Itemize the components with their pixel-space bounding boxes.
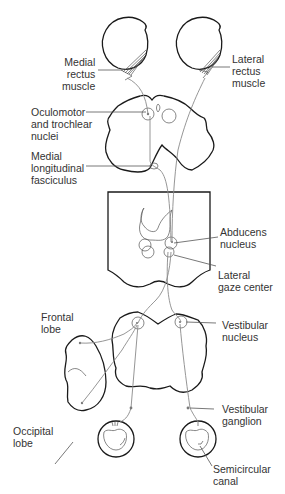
label-frontal-lobe: Frontal lobe bbox=[41, 311, 74, 335]
right-eyeball bbox=[176, 17, 221, 78]
label-medial-longitudinal-fasciculus: Medial longitudinal fasciculus bbox=[31, 150, 84, 186]
left-eyeball bbox=[102, 17, 147, 80]
right-semicircular-canal bbox=[180, 421, 216, 457]
label-lateral-gaze-center: Lateral gaze center bbox=[218, 269, 273, 293]
pons-section bbox=[108, 192, 210, 287]
label-oculomotor-trochlear-nuclei: Oculomotor and trochlear nuclei bbox=[31, 106, 92, 142]
label-lateral-rectus-muscle: Lateral rectus muscle bbox=[232, 53, 265, 89]
medulla-section bbox=[112, 312, 207, 392]
label-medial-rectus-muscle: Medial rectus muscle bbox=[62, 56, 95, 92]
midbrain-section bbox=[105, 95, 213, 172]
left-semicircular-canal bbox=[98, 421, 134, 457]
label-occipital-lobe: Occipital lobe bbox=[13, 425, 53, 449]
label-vestibular-nucleus: Vestibular nucleus bbox=[222, 319, 268, 343]
label-vestibular-ganglion: Vestibular ganglion bbox=[222, 403, 268, 427]
label-semicircular-canal: Semicircular canal bbox=[213, 463, 271, 487]
label-abducens-nucleus: Abducens nucleus bbox=[220, 226, 267, 250]
